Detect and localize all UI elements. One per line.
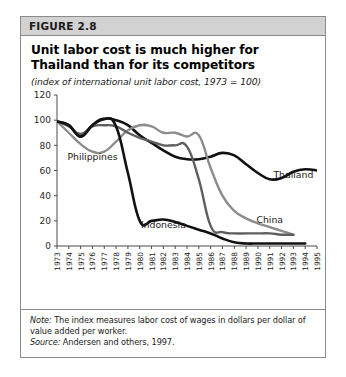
svg-text:1974: 1974 [65,251,74,270]
note-label: Note: [30,315,52,325]
svg-text:1994: 1994 [301,251,310,270]
series-labels: ThailandPhilippinesChinaIndonesia [67,151,313,230]
note-area: Note: The index measures labor cost of w… [21,310,325,357]
svg-text:20: 20 [40,216,52,226]
svg-text:1991: 1991 [266,251,275,270]
svg-text:1978: 1978 [112,251,121,270]
svg-text:1977: 1977 [100,251,109,270]
svg-text:40: 40 [40,191,52,201]
svg-text:1975: 1975 [77,251,86,270]
svg-text:1993: 1993 [289,251,298,270]
svg-text:0: 0 [45,241,51,251]
svg-text:1985: 1985 [195,251,204,270]
svg-text:1979: 1979 [124,251,133,270]
plot-area: 020406080100120 197319741975197619771978… [21,89,325,304]
svg-text:1986: 1986 [207,251,216,270]
svg-text:1984: 1984 [183,251,192,270]
note-body: The index measures labor cost of wages i… [30,315,306,336]
x-axis: 1973197419751976197719781979198019811982… [53,246,322,271]
svg-text:1988: 1988 [230,251,239,270]
y-axis: 020406080100120 [34,90,57,251]
svg-text:1980: 1980 [136,251,145,270]
svg-text:1983: 1983 [171,251,180,270]
svg-text:80: 80 [40,140,52,150]
svg-text:1989: 1989 [242,251,251,270]
series-label-indonesia: Indonesia [141,219,186,230]
series-label-philippines: Philippines [67,151,117,162]
svg-text:1982: 1982 [159,252,168,271]
source-label: Source: [30,337,60,347]
svg-text:1981: 1981 [148,251,157,270]
line-chart-svg: 020406080100120 197319741975197619771978… [21,89,325,304]
svg-text:1995: 1995 [313,251,322,270]
note-text-line: Note: The index measures labor cost of w… [30,315,316,337]
source-body: Andersen and others, 1997. [60,337,174,347]
svg-text:120: 120 [34,90,51,100]
series-label-china: China [256,214,283,225]
svg-text:100: 100 [34,115,51,125]
svg-text:60: 60 [40,166,52,176]
chart-subtitle: (index of international unit labor cost,… [31,76,315,87]
svg-text:1992: 1992 [278,252,287,271]
series-label-thailand: Thailand [272,169,313,180]
chart-title: Unit labor cost is much higher for Thail… [31,43,315,73]
svg-text:1973: 1973 [53,251,62,270]
figure-header-bar: FIGURE 2.8 [21,17,325,36]
svg-text:1987: 1987 [218,251,227,270]
source-text-line: Source: Andersen and others, 1997. [30,337,316,348]
title-area: Unit labor cost is much higher for Thail… [21,36,325,87]
figure-number-label: FIGURE 2.8 [29,20,97,32]
svg-text:1990: 1990 [254,251,263,270]
svg-text:1976: 1976 [88,251,97,270]
figure-container: FIGURE 2.8 Unit labor cost is much highe… [20,16,326,358]
